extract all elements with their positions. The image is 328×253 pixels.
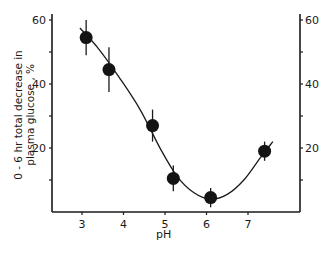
y-axis-label-line2: plasma glucose , % bbox=[24, 50, 36, 180]
data-point bbox=[146, 119, 159, 132]
y-tick-label-right: 20 bbox=[305, 142, 319, 155]
data-point bbox=[258, 145, 271, 158]
y-tick-label-left: 60 bbox=[32, 14, 46, 27]
data-point bbox=[167, 172, 180, 185]
y-tick-label-right: 60 bbox=[305, 14, 319, 27]
y-tick-label-right: 40 bbox=[305, 78, 319, 91]
chart: 20406020406034567 0 - 6 hr total decreas… bbox=[0, 0, 328, 253]
data-point bbox=[80, 31, 93, 44]
y-axis-label-line1: 0 - 6 hr total decrease in bbox=[12, 50, 24, 180]
x-tick-label: 3 bbox=[79, 218, 86, 231]
data-point bbox=[204, 191, 217, 204]
plot-area: 20406020406034567 bbox=[0, 0, 328, 253]
x-tick-label: 6 bbox=[203, 218, 210, 231]
x-tick-label: 7 bbox=[245, 218, 252, 231]
data-point bbox=[102, 63, 115, 76]
x-tick-label: 4 bbox=[120, 218, 127, 231]
x-axis-label: pH bbox=[156, 228, 171, 241]
y-axis-label: 0 - 6 hr total decrease in plasma glucos… bbox=[6, 30, 42, 200]
